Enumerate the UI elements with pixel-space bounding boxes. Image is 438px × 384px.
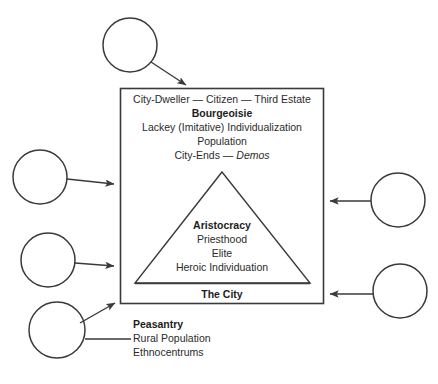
- bourgeoisie-heading: Bourgeoisie: [192, 107, 253, 121]
- city-ends-line: City-Ends — Demos: [174, 149, 269, 163]
- connector-left-upper-to-box: [67, 179, 114, 184]
- lackey-individualization-line: Lackey (Imitative) Individualization: [142, 121, 302, 135]
- the-city-label: The City: [201, 288, 242, 302]
- demos-term: Demos: [236, 149, 269, 161]
- circle-left-upper[interactable]: [13, 150, 67, 204]
- population-line: Population: [197, 135, 247, 149]
- elite-line: Elite: [212, 247, 232, 261]
- circle-right-lower[interactable]: [373, 264, 427, 318]
- connector-left-lower-to-box: [75, 263, 114, 266]
- peasantry-heading: Peasantry: [133, 318, 183, 332]
- priesthood-line: Priesthood: [197, 233, 247, 247]
- circle-right-upper[interactable]: [371, 173, 425, 227]
- connector-bottom-left-to-box: [80, 303, 115, 323]
- circle-top[interactable]: [103, 18, 157, 72]
- diagram-canvas: City-Dweller — Citizen — Third Estate Bo…: [0, 0, 438, 384]
- aristocracy-heading: Aristocracy: [193, 219, 251, 233]
- city-dweller-line: City-Dweller — Citizen — Third Estate: [133, 93, 311, 107]
- circle-bottom-left[interactable]: [29, 302, 85, 358]
- heroic-individuation-line: Heroic Individuation: [176, 261, 268, 275]
- diagram-graphics: [0, 0, 438, 384]
- city-ends-prefix: City-Ends —: [174, 149, 236, 161]
- circle-left-lower[interactable]: [21, 233, 75, 287]
- ethnocentrums-line: Ethnocentrums: [133, 346, 204, 360]
- connector-top-to-box: [151, 62, 186, 85]
- rural-population-line: Rural Population: [133, 332, 211, 346]
